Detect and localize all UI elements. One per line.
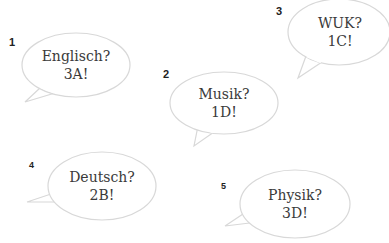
bubble-question: WUK? xyxy=(290,14,389,32)
speech-bubble-exercise: 1 2 3 4 5 Englisch? 3A! Musik? 1D! WUK? … xyxy=(0,0,389,243)
bubble-question: Englisch? xyxy=(26,47,126,65)
speech-bubble-1: Englisch? 3A! xyxy=(26,47,126,83)
bubble-number-2: 2 xyxy=(163,68,169,80)
speech-bubble-2: Musik? 1D! xyxy=(174,85,274,121)
bubble-number-1: 1 xyxy=(9,36,15,48)
bubble-answer: 3A! xyxy=(26,65,126,83)
speech-bubble-3: WUK? 1C! xyxy=(290,14,389,50)
bubble-number-4: 4 xyxy=(29,160,34,170)
bubble-question: Deutsch? xyxy=(52,168,152,186)
bubble-answer: 2B! xyxy=(52,186,152,204)
bubble-question: Physik? xyxy=(245,186,345,204)
bubble-answer: 1D! xyxy=(174,103,274,121)
bubble-question: Musik? xyxy=(174,85,274,103)
bubble-answer: 3D! xyxy=(245,204,345,222)
speech-bubble-4: Deutsch? 2B! xyxy=(52,168,152,204)
bubble-answer: 1C! xyxy=(290,32,389,50)
speech-bubble-5: Physik? 3D! xyxy=(245,186,345,222)
bubble-number-3: 3 xyxy=(276,5,282,17)
bubble-number-5: 5 xyxy=(221,181,226,191)
